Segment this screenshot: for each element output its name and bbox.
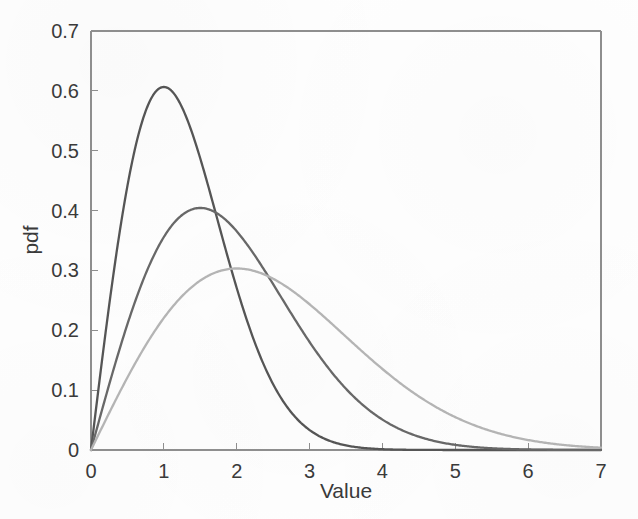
y-tick-label: 0.4	[51, 200, 79, 222]
data-curves	[91, 87, 601, 450]
x-tick-label: 1	[158, 460, 169, 482]
pdf-curve-1	[91, 87, 601, 450]
y-tick-label: 0.6	[51, 80, 79, 102]
x-tick-label: 4	[377, 460, 388, 482]
y-tick-label: 0.5	[51, 140, 79, 162]
y-tick-label: 0	[68, 439, 79, 461]
pdf-curve-3	[91, 268, 601, 450]
y-tick-label: 0.1	[51, 379, 79, 401]
x-tick-label: 7	[595, 460, 606, 482]
x-tick-label: 2	[231, 460, 242, 482]
pdf-curve-2	[91, 208, 601, 450]
y-axis-title: pdf	[19, 225, 42, 254]
pdf-line-chart: 01234567 00.10.20.30.40.50.60.7 Value pd…	[0, 0, 638, 519]
y-tick-label: 0.3	[51, 259, 79, 281]
y-axis-tick-marks	[91, 91, 98, 390]
y-axis-tick-labels: 00.10.20.30.40.50.60.7	[51, 20, 79, 461]
x-tick-label: 5	[450, 460, 461, 482]
x-tick-label: 6	[523, 460, 534, 482]
rayleigh-pdf-figure: 01234567 00.10.20.30.40.50.60.7 Value pd…	[0, 0, 638, 519]
y-tick-label: 0.7	[51, 20, 79, 42]
x-tick-label: 0	[85, 460, 96, 482]
x-tick-label: 3	[304, 460, 315, 482]
y-tick-label: 0.2	[51, 319, 79, 341]
x-axis-title: Value	[320, 479, 372, 502]
